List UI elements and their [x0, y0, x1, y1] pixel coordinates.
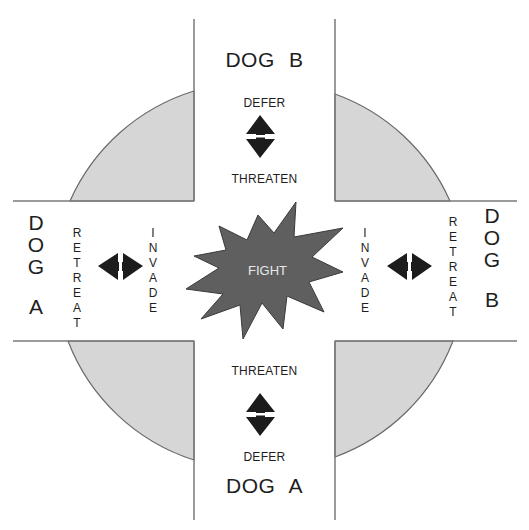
- fight-label: FIGHT: [248, 263, 287, 278]
- top-vertical-double-arrow-icon: [246, 115, 275, 158]
- top-lower-action-label: THREATEN: [194, 172, 335, 186]
- left-invade-label: I N V A D E: [146, 227, 160, 317]
- quadrant-bottom-left: [68, 341, 194, 460]
- top-dog-label: DOG B: [194, 48, 335, 72]
- quadrant-top-left: [70, 91, 194, 201]
- quadrant-top-right: [335, 94, 450, 201]
- right-retreat-label: R E T R E A T: [446, 216, 460, 321]
- left-horizontal-double-arrow-icon: [98, 253, 143, 280]
- bottom-dog-label: DOG A: [194, 474, 335, 498]
- bottom-upper-action-label: THREATEN: [194, 364, 335, 378]
- left-retreat-label: R E T R E A T: [70, 227, 84, 332]
- top-upper-action-label: DEFER: [194, 96, 335, 110]
- quadrant-bottom-right: [335, 341, 453, 457]
- bottom-vertical-double-arrow-icon: [246, 393, 275, 436]
- right-horizontal-double-arrow-icon: [387, 253, 432, 280]
- right-invade-label: I N V A D E: [358, 227, 372, 317]
- right-dog-label: D O G B: [482, 205, 502, 311]
- left-dog-label: D O G A: [26, 212, 46, 318]
- bottom-lower-action-label: DEFER: [194, 450, 335, 464]
